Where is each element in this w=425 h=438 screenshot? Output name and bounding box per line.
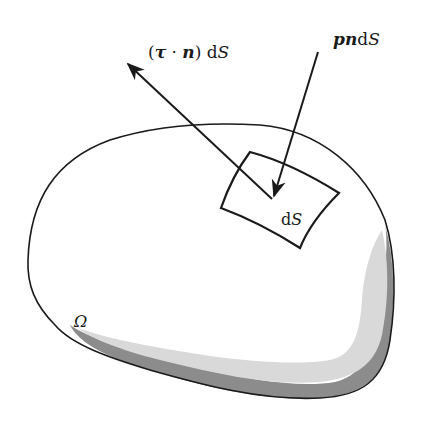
traction-suffix: ) d xyxy=(195,42,218,62)
pressure-d: d xyxy=(357,29,368,49)
patch-d: d xyxy=(281,210,291,229)
normal-symbol: n xyxy=(182,42,194,62)
patch-label: dS xyxy=(281,210,302,229)
traction-arrow xyxy=(128,64,272,199)
pressure-label: pndS xyxy=(333,29,380,49)
domain-label: Ω xyxy=(74,312,87,331)
traction-s: S xyxy=(218,42,230,62)
traction-prefix: ( xyxy=(148,42,155,62)
dot-symbol: · xyxy=(166,42,182,62)
traction-label: (τ · n) dS xyxy=(148,42,229,62)
pressure-pn: pn xyxy=(333,29,357,49)
diagram-canvas xyxy=(0,0,425,438)
pressure-s: S xyxy=(368,29,380,49)
tau-symbol: τ xyxy=(155,42,166,62)
surface-patch xyxy=(221,152,339,248)
patch-s: S xyxy=(291,210,302,229)
